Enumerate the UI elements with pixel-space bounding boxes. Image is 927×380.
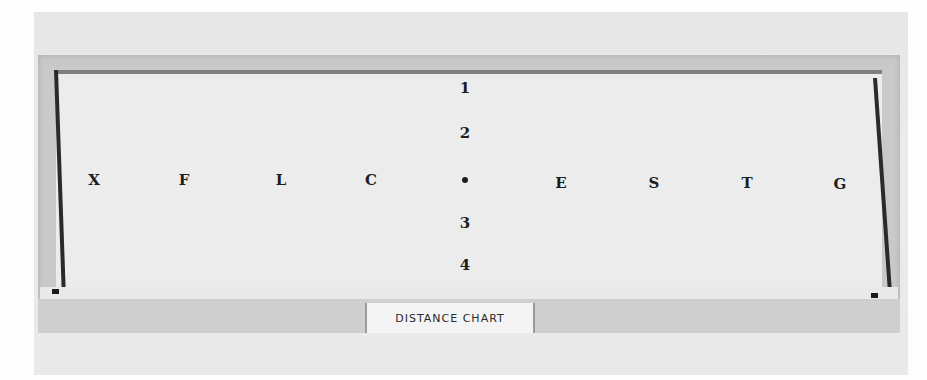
letter-c: C	[365, 171, 377, 189]
letter-e: E	[555, 174, 566, 192]
letter-t: T	[741, 174, 752, 192]
left-corner-bracket	[52, 289, 59, 294]
right-corner-bracket	[871, 293, 878, 298]
letter-f: F	[179, 171, 190, 189]
number-4: 4	[460, 256, 470, 274]
distance-chart-label-card: DISTANCE CHART	[365, 303, 535, 333]
label-card-text: DISTANCE CHART	[395, 312, 504, 325]
center-fixation-dot	[462, 177, 468, 183]
number-1: 1	[460, 79, 470, 97]
number-3: 3	[460, 214, 470, 232]
letter-l: L	[276, 171, 287, 189]
letter-x: X	[88, 171, 100, 189]
number-2: 2	[460, 124, 470, 142]
letter-s: S	[649, 174, 660, 192]
letter-g: G	[834, 175, 847, 193]
